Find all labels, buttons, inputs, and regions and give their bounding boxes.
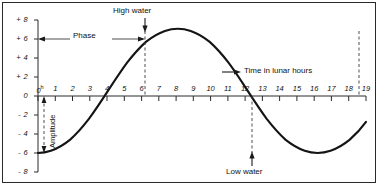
x-tick-label-7: 7 (151, 84, 167, 93)
x-tick-label-16: 16 (306, 84, 322, 93)
x-tick-label-18: 18 (341, 84, 357, 93)
x-tick-label-17: 17 (323, 84, 339, 93)
phase-label: Phase (70, 31, 99, 40)
x-tick-label-14: 14 (272, 84, 288, 93)
x-tick-label-11: 11 (220, 84, 236, 93)
x-tick-label-3: 3 (82, 84, 98, 93)
x-tick-label-5: 5 (116, 84, 132, 93)
x-tick-label-12: 12 (237, 84, 253, 93)
y-tick-label: + 8 (6, 15, 28, 24)
tide-curve-figure: + 8 + 6 + 4 + 2 0 - 2 - 4 - 6 - 8 0h 1 2… (0, 0, 380, 186)
y-tick-label: + 2 (6, 72, 28, 81)
x-tick-label-4: 4 (99, 84, 115, 93)
high-water-label: High water (113, 6, 151, 15)
x-tick-label-13: 13 (254, 84, 270, 93)
y-tick-label: - 8 (6, 167, 28, 176)
x-tick-label-2: 2 (65, 84, 81, 93)
x-tick-label-15: 15 (289, 84, 305, 93)
x-tick-label-8: 8 (168, 84, 184, 93)
y-tick-label: 0 (6, 91, 28, 100)
amplitude-arrow (42, 96, 47, 153)
x-tick-label-1: 1 (47, 84, 63, 93)
plot-area (0, 0, 380, 186)
x-tick-label-6: 6 (134, 84, 150, 93)
y-tick-label: + 4 (6, 53, 28, 62)
low-water-arrow (249, 152, 254, 167)
time-axis-label: Time in lunar hours (244, 66, 312, 75)
y-tick-label: + 6 (6, 34, 28, 43)
x-tick-label-10: 10 (203, 84, 219, 93)
low-water-label: Low water (226, 167, 262, 176)
y-axis-ticks (34, 20, 38, 172)
amplitude-label: Amplitude (48, 115, 57, 148)
x-tick-superscript: h (41, 84, 44, 90)
x-axis-ticks (38, 96, 366, 101)
x-tick-label-19: 19 (358, 84, 374, 93)
high-water-arrow (142, 18, 147, 33)
y-tick-label: - 4 (6, 129, 28, 138)
time-axis-arrow (222, 70, 241, 75)
x-tick-label-9: 9 (185, 84, 201, 93)
y-tick-label: - 6 (6, 148, 28, 157)
y-tick-label: - 2 (6, 110, 28, 119)
x-tick-label-0: 0h (32, 84, 48, 95)
